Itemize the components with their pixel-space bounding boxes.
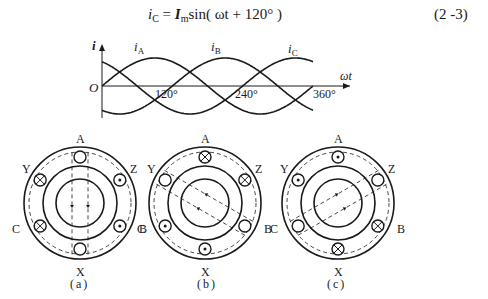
tick-360: 360° <box>313 87 336 101</box>
rotor-core <box>181 179 229 227</box>
y-axis-arrow-icon <box>99 44 105 51</box>
tick-240: 240° <box>235 87 258 101</box>
x-axis-label: ωt <box>340 69 352 83</box>
stator-diagrams: AXYZCBAXYZCBAXYZCB <box>12 132 405 279</box>
origin-label: O <box>89 80 99 95</box>
stator-dashed-ring <box>287 152 389 254</box>
caption-b: (b) <box>197 277 217 292</box>
x-axis-arrow-icon <box>343 83 350 89</box>
terminal-label-upper_right: Z <box>130 162 137 176</box>
current-out-dot-icon <box>118 179 121 182</box>
current-out-dot-icon <box>297 179 300 182</box>
y-axis-label: i <box>92 38 96 53</box>
current-out-dot-icon <box>118 225 121 228</box>
flux-arrow-icon <box>86 205 90 208</box>
stator-dashed-ring <box>29 152 131 254</box>
terminal-label-lower_left: C <box>12 222 20 236</box>
terminal-label-upper_right: Z <box>255 162 262 176</box>
stator-outer-ring <box>282 147 394 259</box>
caption-a: (a) <box>70 277 89 292</box>
caption-c: (c) <box>327 277 346 292</box>
current-out-dot-icon <box>204 248 207 251</box>
terminal-label-top: A <box>76 132 85 146</box>
slot-X <box>74 243 86 255</box>
stator-dashed-ring <box>154 152 256 254</box>
stator-diagram: AXYZCB <box>137 132 272 279</box>
current-out-dot-icon <box>337 156 340 159</box>
rotor-core <box>56 179 104 227</box>
terminal-label-lower_left: C <box>137 222 145 236</box>
stator-outer-ring <box>24 147 136 259</box>
terminal-label-lower_left: C <box>270 222 278 236</box>
slot-C <box>292 220 304 232</box>
flux-arrow-icon <box>70 205 74 208</box>
slot-Y <box>159 174 171 186</box>
terminal-label-upper_left: Y <box>22 162 31 176</box>
slot-B <box>239 220 251 232</box>
rotor-ring <box>168 166 242 240</box>
terminal-label-lower_right: B <box>397 222 405 236</box>
curve-label-iC: iC <box>288 41 298 58</box>
rotor-ring <box>43 166 117 240</box>
terminal-label-upper_right: Z <box>388 162 395 176</box>
terminal-label-upper_left: Y <box>280 162 289 176</box>
current-out-dot-icon <box>164 225 167 228</box>
tick-120: 120° <box>155 87 178 101</box>
rotor-ring <box>301 166 375 240</box>
stator-diagram: AXYZCB <box>270 132 405 279</box>
curve-label-iB: iB <box>211 39 221 56</box>
slot-Z <box>372 174 384 186</box>
figure-canvas: i O ωt 120° 240° 360° iA iB iC AXYZCBAXY… <box>0 0 488 299</box>
stator-outer-ring <box>149 147 261 259</box>
terminal-label-top: A <box>334 132 343 146</box>
terminal-label-top: A <box>201 132 210 146</box>
stator-diagram: AXYZCB <box>12 132 147 279</box>
slot-A <box>74 151 86 163</box>
curve-label-iA: iA <box>134 39 145 56</box>
terminal-label-upper_left: Y <box>147 162 156 176</box>
